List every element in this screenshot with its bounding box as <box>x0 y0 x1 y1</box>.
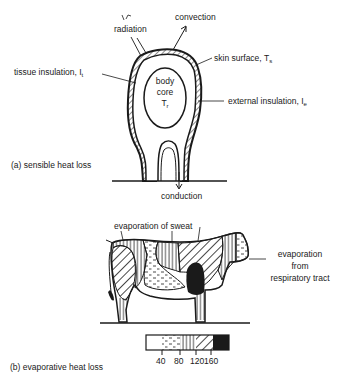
legend-tick-120: 120 <box>190 357 204 366</box>
evaporation-sweat-label: evaporation of sweat <box>114 222 192 231</box>
legend-scale <box>146 335 229 355</box>
evaporation-respiratory-label: evaporation from respiratory tract <box>262 248 338 284</box>
conduction-label: conduction <box>161 192 202 201</box>
external-insulation-label: external insulation, Ie <box>228 97 307 107</box>
skin-surface-label: skin surface, Ts <box>214 54 272 64</box>
panel-b-caption: (b) evaporative heat loss <box>10 363 103 372</box>
convection-label: convection <box>175 13 216 22</box>
body-core-label: body core Tr <box>150 76 180 112</box>
legend-tick-40: 40 <box>156 357 165 366</box>
legend-tick-160: 160 <box>204 357 218 366</box>
legend-tick-80: 80 <box>174 357 183 366</box>
panel-a-caption: (a) sensible heat loss <box>11 161 91 170</box>
radiation-arrow <box>131 37 141 56</box>
cow-illustration <box>100 227 266 323</box>
radiation-label: radiation <box>114 25 147 34</box>
chest-region <box>186 263 204 295</box>
tissue-insulation-label: tissue insulation, It <box>14 68 83 78</box>
